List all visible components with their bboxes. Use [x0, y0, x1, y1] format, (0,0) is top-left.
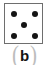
- caption-open-paren: (: [12, 43, 19, 65]
- die-pip-center: [21, 22, 27, 28]
- die-face-five: [4, 3, 43, 44]
- die-pip-top-left: [11, 11, 17, 17]
- caption-close-paren: ): [30, 43, 37, 65]
- die-pip-top-right: [32, 11, 38, 17]
- caption-letter: b: [19, 48, 30, 63]
- figure-root: ( b ): [0, 0, 49, 65]
- die-pip-bottom-left: [11, 33, 17, 39]
- figure-caption: ( b ): [0, 45, 49, 65]
- die-pip-bottom-right: [32, 33, 38, 39]
